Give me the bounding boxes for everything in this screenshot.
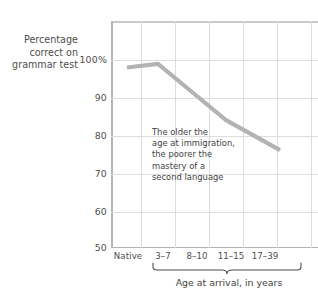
x-tick-label-17-39: 17–39 (242, 251, 288, 261)
annotation-line-4: mastery of a (152, 161, 235, 172)
grammar-test-line-chart: Percentage correct on grammar test 100% … (0, 0, 318, 297)
annotation-line-2: age at immigration, (152, 138, 235, 149)
annotation-line-5: second language (152, 172, 235, 183)
y-axis-title: Percentage correct on grammar test (2, 34, 78, 72)
y-tick-label-100: 100% (63, 55, 107, 65)
y-tick-label-50: 50 (63, 243, 107, 253)
x-axis-brace (150, 262, 305, 277)
y-axis-title-line-1: Percentage (2, 34, 78, 47)
y-tick-label-80: 80 (63, 131, 107, 141)
x-axis-title: Age at arrival, in years (140, 277, 318, 288)
annotation-line-3: the poorer the (152, 149, 235, 160)
annotation-line-1: The older the (152, 127, 235, 138)
chart-annotation: The older the age at immigration, the po… (152, 127, 235, 183)
y-tick-label-60: 60 (63, 207, 107, 217)
y-tick-label-70: 70 (63, 169, 107, 179)
y-tick-label-90: 90 (63, 93, 107, 103)
